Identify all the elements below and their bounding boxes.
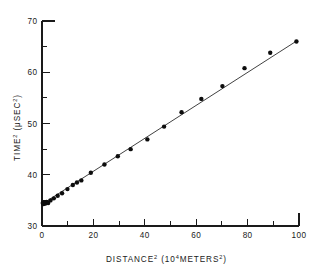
data-point <box>102 162 106 166</box>
data-point <box>199 97 203 101</box>
x-tick-label: 80 <box>243 231 253 240</box>
figure-container: 3040506070020406080100DISTANCE2 (104METE… <box>0 0 321 274</box>
data-point <box>89 171 93 175</box>
x-tick-label: 20 <box>88 231 98 240</box>
data-point <box>75 180 79 184</box>
data-point <box>294 39 298 43</box>
y-tick-label: 60 <box>28 68 38 77</box>
data-point <box>116 154 120 158</box>
scatter-plot: 3040506070020406080100DISTANCE2 (104METE… <box>0 0 321 274</box>
y-tick-label: 70 <box>28 17 38 26</box>
data-point <box>242 66 246 70</box>
x-tick-label: 40 <box>140 231 150 240</box>
data-point <box>79 178 83 182</box>
x-tick-label: 0 <box>40 231 45 240</box>
y-tick-label: 40 <box>28 171 38 180</box>
data-point <box>65 187 69 191</box>
data-point <box>52 196 56 200</box>
x-axis-title: DISTANCE2 (104METERS2) <box>106 254 227 264</box>
data-point <box>268 51 272 55</box>
y-tick-label: 50 <box>28 120 38 129</box>
data-point <box>145 137 149 141</box>
data-point <box>71 183 75 187</box>
data-point <box>162 124 166 128</box>
data-point <box>179 110 183 114</box>
data-point <box>60 191 64 195</box>
y-tick-label: 30 <box>28 222 38 231</box>
data-point <box>55 194 59 198</box>
data-point <box>220 84 224 88</box>
x-tick-label: 100 <box>292 231 307 240</box>
y-axis-title: TIME2 (μSEC2) <box>12 94 22 161</box>
data-point <box>128 147 132 151</box>
x-tick-label: 60 <box>191 231 201 240</box>
